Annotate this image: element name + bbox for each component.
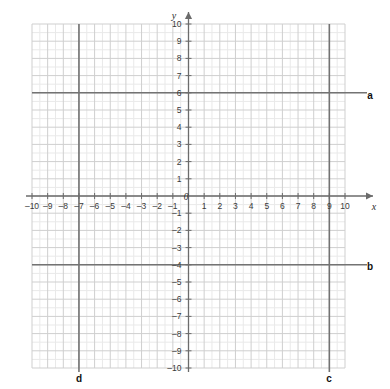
x-tick-label: 7 [296,201,301,211]
origin-label: 0 [184,192,189,202]
y-tick-label: 5 [177,105,182,115]
y-axis-arrowhead [185,12,192,19]
x-tick-label: 6 [280,201,285,211]
x-tick-label: 5 [264,201,269,211]
plotted-lines [32,24,367,372]
axis-lines [26,12,373,372]
y-tick-label: –10 [167,363,181,373]
x-tick-label: 4 [249,201,254,211]
x-axis-name: x [371,201,377,212]
y-tick-label: 9 [177,36,182,46]
y-tick-label: 2 [177,157,182,167]
y-tick-label: –8 [172,329,182,339]
x-tick-label: 10 [340,201,350,211]
line-label-d: d [76,373,82,384]
y-tick-label: –1 [172,208,182,218]
y-tick-label: 4 [177,122,182,132]
x-tick-label: –4 [121,201,131,211]
y-tick-label: –5 [172,277,182,287]
y-tick-label: –2 [172,225,182,235]
y-tick-label: –9 [172,346,182,356]
y-tick-label: 6 [177,88,182,98]
y-axis-name: y [171,10,177,21]
x-tick-label: 8 [311,201,316,211]
y-tick-label: 3 [177,139,182,149]
x-tick-label: 2 [217,201,222,211]
x-tick-label: –2 [152,201,162,211]
x-tick-label: –6 [90,201,100,211]
line-label-c: c [326,373,332,384]
x-tick-label: 9 [327,201,332,211]
coordinate-grid-svg: –10–9–8–7–6–5–4–3–2–112345678910 1098765… [0,0,390,389]
y-tick-label: –6 [172,294,182,304]
x-tick-label: 3 [233,201,238,211]
x-tick-label: –5 [106,201,116,211]
x-axis-arrowhead [366,192,373,199]
x-tick-label: –3 [137,201,147,211]
x-tick-label: –9 [43,201,53,211]
line-label-a: a [367,90,373,101]
y-tick-label: 8 [177,53,182,63]
x-tick-label: –7 [74,201,84,211]
y-tick-label: 7 [177,71,182,81]
x-axis-tick-labels: –10–9–8–7–6–5–4–3–2–112345678910 [25,201,350,211]
x-tick-label: –8 [59,201,69,211]
y-tick-label: –7 [172,311,182,321]
x-tick-label: 1 [202,201,207,211]
coordinate-plane-figure: –10–9–8–7–6–5–4–3–2–112345678910 1098765… [0,0,390,389]
line-label-b: b [367,261,373,272]
y-tick-label: 1 [177,174,182,184]
x-tick-label: –10 [25,201,39,211]
y-tick-label: –3 [172,243,182,253]
y-tick-label: –4 [172,260,182,270]
